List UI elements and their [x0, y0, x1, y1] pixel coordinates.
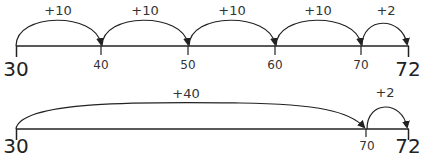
jump-label: +10	[218, 3, 245, 18]
jump-arrow	[362, 23, 407, 46]
jump-arrow	[16, 103, 364, 129]
tick-label-50: 50	[180, 58, 195, 72]
tick-label-60: 60	[267, 58, 282, 72]
jump-arrow	[276, 20, 361, 46]
number-line-diagram: +10 +10 +10 +10 +2 30 40 50 60 70 72 +40…	[0, 0, 428, 156]
number-line-ten-jumps: +10 +10 +10 +10 +2 30 40 50 60 70 72	[3, 3, 420, 81]
tick-label-70: 70	[353, 58, 368, 72]
tick-label-70: 70	[359, 139, 374, 153]
tick-label-72: 72	[395, 57, 420, 81]
jump-arrow	[16, 20, 101, 46]
tick-label-30: 30	[3, 134, 28, 156]
jump-label: +40	[172, 86, 199, 101]
jump-label: +10	[131, 3, 158, 18]
jump-label: +2	[375, 85, 394, 100]
jump-label: +10	[44, 3, 71, 18]
number-line-forty-jump: +40 +2 30 70 72	[3, 85, 420, 156]
tick-label-72: 72	[395, 134, 420, 156]
jump-arrow	[102, 20, 188, 46]
jump-arrow	[367, 107, 407, 129]
jump-label: +2	[376, 3, 395, 18]
tick-label-40: 40	[93, 58, 108, 72]
tick-label-30: 30	[3, 57, 28, 81]
jump-arrow	[189, 20, 275, 46]
jump-label: +10	[304, 3, 331, 18]
